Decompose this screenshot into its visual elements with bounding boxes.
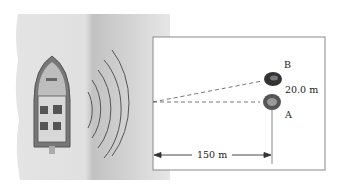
rock-a-icon (263, 94, 281, 110)
label-point-b: B (284, 59, 291, 70)
label-distance: 150 m (197, 149, 227, 160)
rock-b-icon (264, 72, 282, 86)
boat-icon (34, 56, 70, 154)
label-point-a: A (285, 109, 292, 120)
label-separation: 20.0 m (285, 84, 318, 95)
diagram-frame (153, 37, 325, 170)
